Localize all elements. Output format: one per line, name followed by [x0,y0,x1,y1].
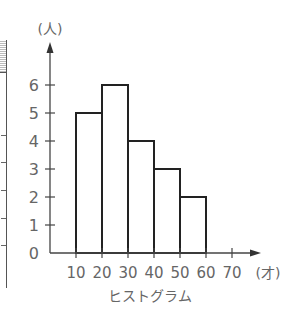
x-axis-arrow-icon [250,250,261,257]
x-tick-label: 30 [118,264,137,282]
histogram-bar [128,141,154,253]
x-axis-unit-label: (才) [256,265,281,281]
x-tick-label: 50 [170,264,189,282]
histogram-chart: 012345610203040506070 (人) (才) ヒストグラム [0,0,293,316]
chart-caption: ヒストグラム [108,288,192,304]
y-tick-label: 5 [29,104,39,123]
x-tick-label: 10 [66,264,85,282]
y-tick-label: 6 [29,76,39,95]
histogram-bars [76,85,206,253]
y-tick-label: 2 [29,188,39,207]
histogram-bar [154,169,180,253]
x-tick-label: 60 [196,264,215,282]
histogram-bar [102,85,128,253]
y-axis-arrow-icon [47,42,54,53]
y-tick-label: 3 [29,160,39,179]
y-axis-unit-label: (人) [38,21,63,37]
y-tick-label: 4 [29,132,39,151]
x-tick-label: 70 [222,264,241,282]
y-tick-label: 1 [29,216,39,235]
histogram-bar [76,113,102,253]
histogram-bar [180,197,206,253]
x-tick-label: 20 [92,264,111,282]
y-tick-label: 0 [29,244,39,263]
x-tick-label: 40 [144,264,163,282]
